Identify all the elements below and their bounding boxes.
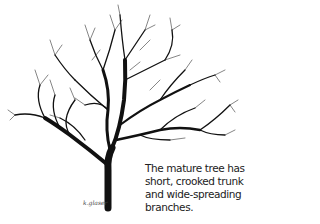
- caption-line: The mature tree has a: [145, 162, 245, 175]
- caption: The mature tree has a short, crooked tru…: [145, 162, 245, 214]
- artist-signature: k.glaser: [83, 199, 107, 206]
- caption-line: branches.: [145, 201, 245, 214]
- caption-line: and wide-spreading: [145, 188, 245, 201]
- caption-line: short, crooked trunk: [145, 175, 245, 188]
